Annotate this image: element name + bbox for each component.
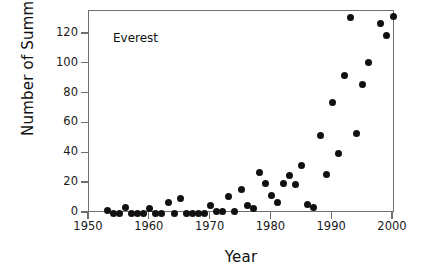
data-point — [256, 169, 263, 176]
x-tick-mark — [270, 212, 271, 219]
data-point — [323, 171, 330, 178]
data-point — [177, 195, 184, 202]
y-tick-label: 20 — [63, 176, 78, 188]
x-tick-label: 1970 — [195, 221, 224, 233]
series-annotation-everest: Everest — [113, 31, 158, 45]
x-axis-title: Year — [88, 248, 394, 266]
data-point — [341, 72, 348, 79]
data-point — [207, 202, 214, 209]
data-point — [165, 199, 172, 206]
scatter-chart-figure: Number of Summits 020406080100120 Everes… — [0, 0, 428, 280]
data-point — [158, 210, 165, 217]
data-point — [335, 150, 342, 157]
data-point — [365, 59, 372, 66]
y-tick-mark — [81, 181, 88, 182]
data-point — [383, 32, 390, 39]
y-tick-mark — [81, 152, 88, 153]
data-point — [317, 132, 324, 139]
data-point — [171, 210, 178, 217]
x-tick-mark — [209, 212, 210, 219]
data-point — [250, 205, 257, 212]
plot-area: Everest — [88, 10, 394, 212]
x-tick-mark — [87, 212, 88, 219]
data-point — [219, 208, 226, 215]
y-tick-label: 100 — [56, 57, 78, 69]
x-tick-label: 1990 — [317, 221, 346, 233]
y-tick-label: 0 — [71, 206, 78, 218]
data-point — [274, 199, 281, 206]
data-point — [286, 172, 293, 179]
data-point — [280, 180, 287, 187]
x-tick-mark — [148, 212, 149, 219]
y-tick-mark — [81, 122, 88, 123]
data-point — [201, 210, 208, 217]
y-tick-label: 80 — [63, 87, 78, 99]
x-tick-mark — [391, 212, 392, 219]
data-point — [377, 20, 384, 27]
x-tick-label: 1950 — [73, 221, 102, 233]
data-point — [122, 204, 129, 211]
data-point — [390, 13, 397, 20]
data-point — [359, 81, 366, 88]
data-point — [310, 204, 317, 211]
data-point — [353, 130, 360, 137]
y-tick-mark — [81, 62, 88, 63]
x-tick-label: 1980 — [256, 221, 285, 233]
data-point — [347, 14, 354, 21]
data-point — [262, 180, 269, 187]
data-point — [268, 192, 275, 199]
y-tick-mark — [81, 32, 88, 33]
x-tick-label: 1960 — [134, 221, 163, 233]
x-tick-label: 2000 — [377, 221, 406, 233]
data-point — [329, 99, 336, 106]
data-point — [116, 210, 123, 217]
data-point — [225, 193, 232, 200]
y-axis-title: Number of Summits — [19, 0, 37, 149]
y-tick-label: 120 — [56, 27, 78, 39]
x-tick-mark — [331, 212, 332, 219]
data-point — [292, 181, 299, 188]
y-tick-label: 60 — [63, 116, 78, 128]
data-point — [298, 162, 305, 169]
y-tick-label: 40 — [63, 146, 78, 158]
data-point — [231, 208, 238, 215]
y-axis-tick-labels: 020406080100120 — [40, 0, 78, 280]
y-tick-mark — [81, 92, 88, 93]
data-point — [238, 186, 245, 193]
